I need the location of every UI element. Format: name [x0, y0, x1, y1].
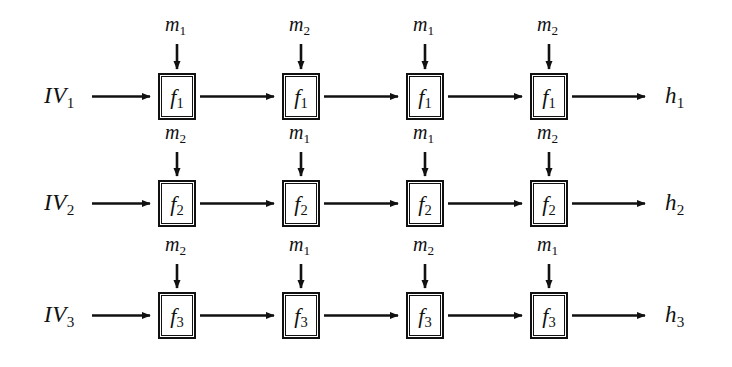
iv-label-row-1: IV1 — [44, 84, 74, 107]
message-label-row-3-col-4: m1 — [537, 234, 558, 254]
function-label: f1 — [294, 86, 307, 108]
message-label-row-1-col-2: m2 — [289, 14, 310, 34]
function-box-row-2-col-1[interactable]: f2 — [158, 180, 196, 227]
diagram-connectors — [0, 0, 732, 367]
function-label: f1 — [418, 86, 431, 108]
function-box-row-2-col-3[interactable]: f2 — [406, 180, 444, 227]
function-box-row-3-col-2[interactable]: f3 — [282, 292, 320, 339]
message-label-row-1-col-3: m1 — [413, 14, 434, 34]
function-label: f3 — [418, 305, 431, 327]
function-label: f3 — [294, 305, 307, 327]
iv-label-row-2: IV2 — [44, 191, 74, 214]
function-label: f2 — [542, 193, 555, 215]
function-box-row-3-col-4[interactable]: f3 — [530, 292, 568, 339]
function-box-row-3-col-1[interactable]: f3 — [158, 292, 196, 339]
function-box-row-1-col-2[interactable]: f1 — [282, 73, 320, 120]
message-label-row-2-col-3: m1 — [413, 122, 434, 142]
message-label-row-1-col-1: m1 — [165, 14, 186, 34]
function-box-row-1-col-3[interactable]: f1 — [406, 73, 444, 120]
function-label: f1 — [542, 86, 555, 108]
message-label-row-2-col-2: m1 — [289, 122, 310, 142]
function-label: f1 — [170, 86, 183, 108]
function-label: f3 — [542, 305, 555, 327]
message-label-row-3-col-3: m2 — [413, 234, 434, 254]
function-label: f2 — [170, 193, 183, 215]
function-box-row-1-col-1[interactable]: f1 — [158, 73, 196, 120]
function-box-row-1-col-4[interactable]: f1 — [530, 73, 568, 120]
output-label-row-3: h3 — [665, 303, 684, 326]
message-label-row-3-col-2: m1 — [289, 234, 310, 254]
hash-chain-diagram: IV1 m1 m2 m1 m2 f1 f1 f1 f1 h1 — [0, 0, 732, 367]
iv-label-row-3: IV3 — [44, 303, 74, 326]
function-label: f2 — [418, 193, 431, 215]
message-label-row-2-col-1: m2 — [165, 122, 186, 142]
output-label-row-1: h1 — [665, 84, 684, 107]
output-label-row-2: h2 — [665, 191, 684, 214]
function-box-row-2-col-2[interactable]: f2 — [282, 180, 320, 227]
function-box-row-3-col-3[interactable]: f3 — [406, 292, 444, 339]
message-label-row-2-col-4: m2 — [537, 122, 558, 142]
function-label: f3 — [170, 305, 183, 327]
message-label-row-3-col-1: m2 — [165, 234, 186, 254]
message-label-row-1-col-4: m2 — [537, 14, 558, 34]
function-label: f2 — [294, 193, 307, 215]
function-box-row-2-col-4[interactable]: f2 — [530, 180, 568, 227]
